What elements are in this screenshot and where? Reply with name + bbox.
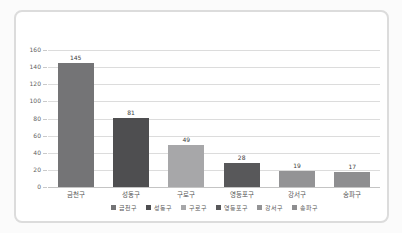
page-background: { "chart_data": { "type": "bar", "title"…: [0, 0, 402, 233]
gridline: [48, 153, 380, 154]
plot-area: 020406080100120140160 1458149281917 금천구성…: [48, 50, 380, 187]
gridline: [48, 136, 380, 137]
legend-label: 금천구: [119, 204, 137, 211]
legend-swatch-icon: [292, 205, 297, 210]
bar-value-label: 17: [349, 164, 357, 170]
gridline: [48, 170, 380, 171]
legend-item-구로구: 구로구: [181, 204, 207, 211]
y-axis-tick-label: 20: [33, 167, 41, 173]
y-axis-tick-label: 140: [30, 64, 41, 70]
y-axis-tick: [43, 67, 47, 68]
gridline: [48, 67, 380, 68]
legend-item-송파구: 송파구: [292, 204, 318, 211]
legend-swatch-icon: [216, 205, 221, 210]
bar-구로구: 49: [168, 145, 204, 187]
y-axis-tick-label: 0: [37, 184, 41, 190]
bar-성동구: 81: [113, 118, 149, 187]
legend-item-성동구: 성동구: [146, 204, 172, 211]
y-axis-tick: [43, 187, 47, 188]
y-axis-tick: [43, 153, 47, 154]
x-axis-baseline: [48, 187, 380, 188]
legend-label: 영등포구: [224, 204, 248, 211]
y-axis-tick: [43, 119, 47, 120]
legend-swatch-icon: [257, 205, 262, 210]
legend-swatch-icon: [146, 205, 151, 210]
legend-label: 성동구: [154, 204, 172, 211]
legend-label: 강서구: [265, 204, 283, 211]
y-axis-tick-label: 40: [33, 150, 41, 156]
x-axis-label-성동구: 성동구: [122, 192, 140, 199]
y-axis-tick: [43, 50, 47, 51]
y-axis-tick: [43, 170, 47, 171]
bar-송파구: 17: [334, 172, 370, 187]
x-axis-label-송파구: 송파구: [343, 192, 361, 199]
x-axis-label-강서구: 강서구: [288, 192, 306, 199]
legend-label: 구로구: [189, 204, 207, 211]
gridline: [48, 50, 380, 51]
legend-item-금천구: 금천구: [111, 204, 137, 211]
y-axis-tick-label: 120: [30, 81, 41, 87]
bar-강서구: 19: [279, 171, 315, 187]
bar-value-label: 145: [70, 55, 81, 61]
bar-value-label: 19: [293, 163, 301, 169]
legend-label: 송파구: [300, 204, 318, 211]
gridline: [48, 119, 380, 120]
x-axis-label-영등포구: 영등포구: [230, 192, 254, 199]
y-axis-tick-label: 100: [30, 98, 41, 104]
legend-item-영등포구: 영등포구: [216, 204, 248, 211]
gridline: [48, 101, 380, 102]
y-axis-tick: [43, 101, 47, 102]
y-axis-tick: [43, 84, 47, 85]
bar-value-label: 81: [127, 110, 135, 116]
bar-value-label: 49: [183, 137, 191, 143]
y-axis-tick-label: 160: [30, 47, 41, 53]
gridline: [48, 84, 380, 85]
chart-card: 020406080100120140160 1458149281917 금천구성…: [14, 10, 389, 223]
legend-swatch-icon: [111, 205, 116, 210]
y-axis-tick-label: 60: [33, 133, 41, 139]
legend-item-강서구: 강서구: [257, 204, 283, 211]
y-axis-tick-label: 80: [33, 116, 41, 122]
legend-swatch-icon: [181, 205, 186, 210]
bar-금천구: 145: [58, 63, 94, 187]
x-axis-label-금천구: 금천구: [67, 192, 85, 199]
x-axis-label-구로구: 구로구: [177, 192, 195, 199]
legend: 금천구성동구구로구영등포구강서구송파구: [48, 204, 380, 211]
y-axis-tick: [43, 136, 47, 137]
bar-영등포구: 28: [224, 163, 260, 187]
bar-value-label: 28: [238, 155, 246, 161]
